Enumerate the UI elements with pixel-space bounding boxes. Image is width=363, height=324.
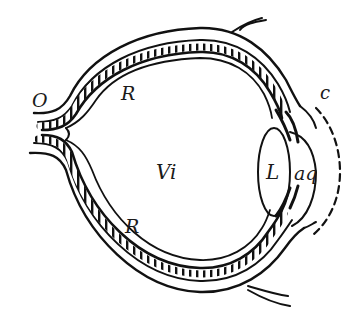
retina-lower <box>66 140 270 260</box>
label-cornea: c <box>320 84 330 102</box>
sclera-cornea-lower <box>304 222 316 228</box>
vessel-bottom <box>248 286 288 296</box>
label-retina-top: R <box>121 84 135 103</box>
cornea-dashed <box>314 108 340 234</box>
ciliary-process-lower <box>290 186 298 208</box>
retina-upper <box>66 58 272 128</box>
optic-nerve-disc <box>66 128 69 140</box>
label-lens: L <box>266 162 279 182</box>
sclera-cornea-upper <box>300 106 316 128</box>
label-optic-nerve: O <box>32 91 48 110</box>
label-aqueous: aq <box>294 164 318 183</box>
label-retina-bottom: R <box>125 217 139 236</box>
label-vitreous: Vi <box>156 162 177 182</box>
